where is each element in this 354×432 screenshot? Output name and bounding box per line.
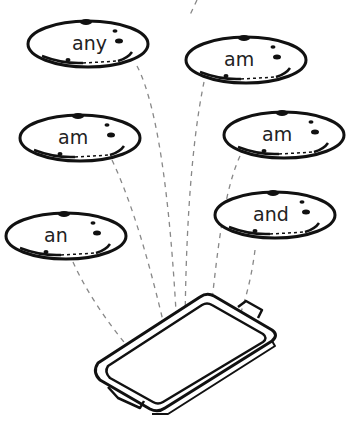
cookie-word: am [224,48,254,70]
cookie-word: am [262,123,292,145]
cookie-word: any [72,32,107,54]
cookie-am-2: am [20,113,140,161]
cookie-am-3: am [224,110,344,158]
baking-tray-icon [95,294,275,414]
cookie-and: and [215,190,335,238]
cookie-an: an [6,211,126,259]
cookie-word: an [44,224,68,246]
worksheet-canvas: any am am am an and [0,0,354,432]
cookie-any: any [28,19,148,67]
cookie-word: am [58,126,88,148]
cookie-am-1: am [186,35,306,83]
cookie-word: and [253,203,289,225]
